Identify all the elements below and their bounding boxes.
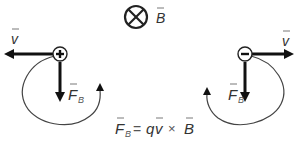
equation-equals: = [133,121,141,137]
equation-lhs-subscript: B [125,129,131,139]
field-into-page-icon [125,6,147,28]
positive-velocity-arrowhead-icon [4,49,14,59]
negative-force-subscript: B [238,95,244,105]
lorentz-force-diagram: B v F B v F B [0,0,297,149]
field-label-text: B [156,10,165,26]
equation-q: q [146,120,155,137]
field-label: B [156,8,165,26]
positive-force-subscript: B [78,95,84,105]
negative-force-label: F [228,86,238,103]
positive-force-label: F [68,86,78,103]
negative-charge-group: v F B [203,31,294,125]
negative-velocity-arrowhead-icon [284,49,294,59]
equation-lhs: F [115,120,125,137]
negative-trajectory-arrowhead-icon [203,87,211,95]
positive-charge-group: v F B [4,29,104,125]
negative-velocity-label: v [282,33,290,49]
positive-trajectory-arrowhead-icon [96,83,104,91]
equation-v: v [155,120,164,137]
lorentz-equation: F B = q v × B [115,118,194,139]
positive-force-arrowhead-icon [55,92,65,102]
equation-cross: × [168,121,176,136]
positive-velocity-label: v [11,31,19,47]
equation-b: B [184,120,194,137]
